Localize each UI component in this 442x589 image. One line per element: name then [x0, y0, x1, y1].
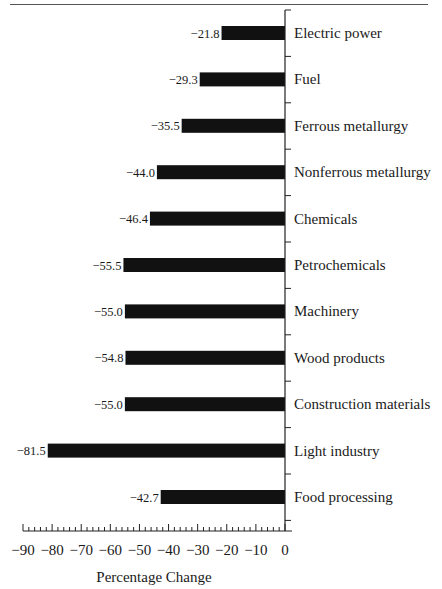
x-tick-label: 0 — [281, 542, 289, 558]
value-label: −35.5 — [151, 119, 180, 133]
category-label: Electric power — [294, 25, 382, 41]
bar — [182, 119, 285, 133]
category-label: Chemicals — [294, 211, 357, 227]
value-label: −44.0 — [126, 166, 155, 180]
bar — [222, 26, 285, 40]
value-label: −46.4 — [119, 212, 149, 226]
bars-group — [48, 26, 285, 504]
category-label: Food processing — [294, 489, 393, 505]
category-label: Wood products — [294, 350, 385, 366]
bar — [125, 397, 285, 411]
value-label: −54.8 — [95, 351, 124, 365]
category-label: Machinery — [294, 303, 359, 319]
x-tick-label: −40 — [157, 542, 180, 558]
x-tick-label: −90 — [11, 542, 34, 558]
bar — [150, 212, 285, 226]
x-axis: −90−80−70−60−50−40−30−20−100 — [11, 524, 292, 558]
value-label: −55.0 — [94, 398, 123, 412]
bar — [200, 72, 285, 86]
bar — [161, 490, 285, 504]
bar — [123, 258, 285, 272]
category-label: Nonferrous metallurgy — [294, 164, 431, 180]
category-label: Ferrous metallurgy — [294, 118, 409, 134]
x-tick-label: −10 — [244, 542, 267, 558]
value-label: −42.7 — [130, 491, 159, 505]
x-tick-label: −50 — [128, 542, 151, 558]
x-axis-label: Percentage Change — [96, 569, 212, 585]
bar-chart: Electric powerFuelFerrous metallurgyNonf… — [0, 0, 442, 589]
value-label: −21.8 — [191, 27, 220, 41]
y-axis — [285, 10, 291, 531]
bar — [157, 165, 285, 179]
category-label: Fuel — [294, 71, 321, 87]
category-label: Light industry — [294, 443, 380, 459]
x-tick-label: −80 — [40, 542, 63, 558]
x-tick-label: −70 — [69, 542, 92, 558]
value-label: −29.3 — [169, 73, 198, 87]
value-label: −81.5 — [17, 444, 46, 458]
bar — [125, 351, 285, 365]
value-label: −55.0 — [94, 305, 123, 319]
bar — [48, 444, 285, 458]
x-tick-label: −30 — [186, 542, 209, 558]
x-tick-label: −20 — [215, 542, 238, 558]
category-label: Construction materials — [294, 396, 430, 412]
category-labels: Electric powerFuelFerrous metallurgyNonf… — [294, 25, 431, 505]
bar — [125, 304, 285, 318]
category-label: Petrochemicals — [294, 257, 386, 273]
x-tick-label: −60 — [99, 542, 122, 558]
value-label: −55.5 — [92, 259, 121, 273]
